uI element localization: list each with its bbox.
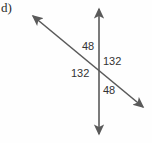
angle-label-top: 48 [82, 41, 94, 52]
angle-diagram-figure: d) 48 132 132 48 [0, 0, 152, 143]
part-label: d) [1, 1, 12, 14]
angle-label-right: 132 [103, 56, 121, 67]
diagonal-line [33, 16, 143, 107]
angle-label-left: 132 [71, 68, 89, 79]
angle-label-bottom: 48 [103, 85, 115, 96]
